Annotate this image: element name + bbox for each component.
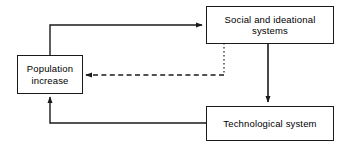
edge-technological-to-population [50,97,206,123]
node-social-and-ideational-systems: Social and ideational systems [206,6,334,44]
node-social-label: Social and ideational systems [222,14,319,37]
diagram-canvas: Social and ideational systems Population… [0,0,348,147]
node-technological-system: Technological system [206,106,334,141]
edge-population-to-social [50,25,202,55]
node-population-increase: Population increase [17,55,83,94]
node-population-label: Population increase [24,63,76,86]
node-technological-label: Technological system [220,118,319,130]
